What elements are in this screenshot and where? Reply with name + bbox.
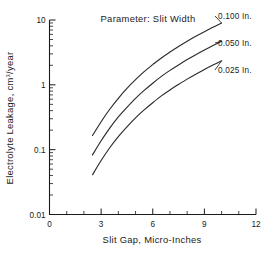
series-label: 0.050 In.	[218, 39, 252, 48]
y-axis-title: Electrolyte Leakage, cm3/year	[4, 52, 15, 185]
x-tick-label: 6	[150, 220, 155, 229]
chart-title: Parameter: Slit Width	[101, 13, 196, 24]
y-axis-title-tail: /year	[4, 52, 15, 74]
x-axis-title: Slit Gap, Micro-Inches	[103, 234, 202, 245]
x-tick-label: 12	[251, 220, 261, 229]
y-tick-label: 1	[41, 81, 46, 90]
series-label: 0.025 In.	[218, 66, 252, 75]
y-tick-label: 0.01	[30, 211, 46, 220]
y-tick-label: 10	[36, 16, 46, 25]
x-tick-label: 0	[47, 220, 52, 229]
x-tick-label: 9	[202, 220, 207, 229]
chart-figure: Parameter: Slit Width 1010.10.01 036912 …	[0, 0, 268, 261]
x-tick-label: 3	[99, 220, 104, 229]
y-tick-label: 0.1	[34, 146, 46, 155]
svg-text:Electrolyte Leakage, cm3/year: Electrolyte Leakage, cm3/year	[4, 52, 15, 185]
y-axis-title-main: Electrolyte Leakage, cm	[4, 77, 15, 184]
series-label: 0.100 In.	[218, 12, 252, 21]
leakage-vs-gap-chart: Parameter: Slit Width 1010.10.01 036912 …	[0, 0, 268, 261]
